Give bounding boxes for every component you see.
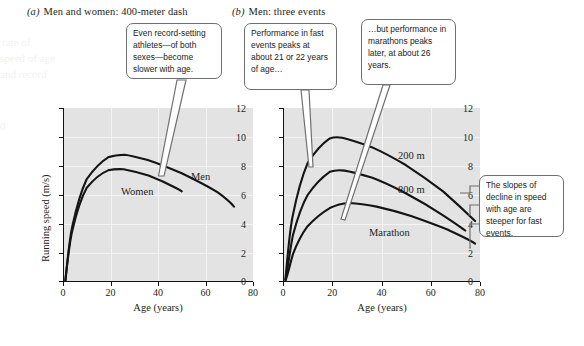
- panel-a-title-text: Men and women: 400-meter dash: [44, 6, 188, 17]
- ytick-12: [279, 108, 283, 109]
- callout-b2: …but performance in marathons peaks late…: [361, 19, 456, 85]
- ytick-label-10: 10: [236, 132, 246, 143]
- ytick-2: [279, 253, 283, 254]
- panel-b-x-axis-title: Age (years): [357, 302, 406, 313]
- xtick-label-20: 20: [327, 287, 337, 298]
- ytick-8: [279, 166, 283, 167]
- panel-b-title: (b)Men: three events: [232, 6, 325, 17]
- page-bleed-artifact: and record: [0, 68, 47, 80]
- ytick-12: [59, 108, 63, 109]
- ytick-4: [59, 224, 63, 225]
- callout-a1: Even record-setting athletes—of both sex…: [126, 23, 222, 79]
- series-label-men: Men: [191, 171, 210, 182]
- xtick-0: [283, 282, 284, 286]
- gridline-x-20: [111, 108, 112, 282]
- ytick-label-10: 10: [463, 132, 473, 143]
- panel-a-tag: (a): [27, 6, 40, 17]
- callout-b3: The slopes of decline in speed with age …: [479, 175, 564, 237]
- ytick-2: [59, 253, 63, 254]
- ytick-label-4: 4: [468, 219, 473, 230]
- ytick-label-0: 0: [241, 276, 246, 287]
- series-label-200m: 200 m: [398, 150, 425, 161]
- xtick-40: [382, 282, 383, 286]
- xtick-80: [253, 282, 254, 286]
- xtick-20: [111, 282, 112, 286]
- series-label-marathon: Marathon: [369, 227, 410, 238]
- callout-b1: Performance in fast events peaks at abou…: [244, 23, 337, 90]
- xtick-60: [206, 282, 207, 286]
- ytick-label-8: 8: [468, 161, 473, 172]
- ytick-6: [279, 195, 283, 196]
- panel-b-tag: (b): [232, 6, 245, 17]
- panel-b-y-axis: [283, 108, 284, 282]
- ytick-10: [279, 137, 283, 138]
- ytick-label-6: 6: [468, 190, 473, 201]
- xtick-label-0: 0: [61, 287, 66, 298]
- page-bleed-artifact: rate of: [2, 36, 30, 48]
- panel-a-plot-area: 0 2 4 6 8 10 12 0 20 40 60 80 Men Women: [63, 108, 253, 282]
- ytick-label-12: 12: [463, 103, 473, 114]
- panel-a-y-axis-title: Running speed (m/s): [40, 175, 51, 263]
- ytick-10: [59, 137, 63, 138]
- ytick-label-12: 12: [236, 103, 246, 114]
- gridline-x-40: [158, 108, 159, 282]
- gridline-x-60: [206, 108, 207, 282]
- ytick-label-0: 0: [468, 276, 473, 287]
- gridline-x-40: [382, 108, 383, 282]
- page-bleed-artifact: speed of age: [0, 52, 55, 64]
- xtick-label-60: 60: [426, 287, 436, 298]
- figure-running-speed-vs-age: rate of speed of age and record 0 (a)Men…: [0, 0, 584, 346]
- panel-b-title-text: Men: three events: [249, 6, 326, 17]
- xtick-40: [158, 282, 159, 286]
- ytick-6: [59, 195, 63, 196]
- ytick-4: [279, 224, 283, 225]
- ytick-label-6: 6: [241, 190, 246, 201]
- ytick-8: [59, 166, 63, 167]
- series-label-800m: 800 m: [398, 184, 425, 195]
- gridline-x-20: [332, 108, 333, 282]
- xtick-label-0: 0: [281, 287, 286, 298]
- panel-b-plot-area: 0 2 4 6 8 10 12 0 20 40 60 80 200 m 800 …: [283, 108, 480, 282]
- xtick-label-40: 40: [377, 287, 387, 298]
- series-label-women: Women: [121, 186, 153, 197]
- xtick-label-80: 80: [248, 287, 258, 298]
- xtick-label-80: 80: [475, 287, 485, 298]
- ytick-label-8: 8: [241, 161, 246, 172]
- ytick-label-2: 2: [241, 248, 246, 259]
- xtick-label-60: 60: [201, 287, 211, 298]
- gridline-x-60: [431, 108, 432, 282]
- xtick-label-40: 40: [153, 287, 163, 298]
- ytick-label-4: 4: [241, 219, 246, 230]
- panel-a-title: (a)Men and women: 400-meter dash: [27, 6, 188, 17]
- xtick-0: [63, 282, 64, 286]
- xtick-80: [480, 282, 481, 286]
- ytick-label-2: 2: [468, 248, 473, 259]
- page-bleed-artifact: 0: [0, 120, 6, 132]
- panel-a-y-axis: [63, 108, 64, 282]
- panel-a-x-axis-title: Age (years): [133, 302, 182, 313]
- xtick-label-20: 20: [106, 287, 116, 298]
- xtick-20: [332, 282, 333, 286]
- xtick-60: [431, 282, 432, 286]
